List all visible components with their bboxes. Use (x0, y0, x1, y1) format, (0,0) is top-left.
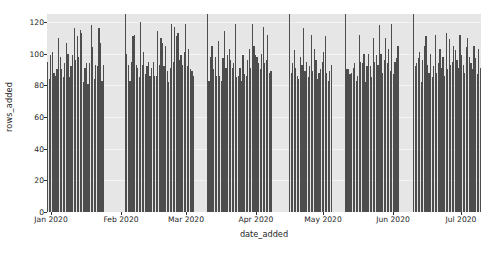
y-tick-label: 0 (2, 208, 44, 217)
x-tick-label: Jan 2020 (34, 215, 67, 224)
bar (331, 65, 332, 212)
x-tick-label: Apr 2020 (239, 215, 274, 224)
bar (397, 46, 398, 212)
bar (480, 68, 481, 212)
y-axis-label: rows_added (0, 0, 18, 213)
y-tick-label: 80 (2, 81, 44, 90)
bar (193, 76, 194, 212)
y-axis-ticks: 020406080100120 (0, 0, 44, 261)
x-tick-mark (121, 212, 122, 215)
x-tick-mark (393, 212, 394, 215)
y-tick-label: 40 (2, 144, 44, 153)
bar-series (47, 14, 481, 212)
y-tick-mark (44, 212, 47, 213)
x-tick-label: Feb 2020 (103, 215, 138, 224)
x-tick-label: May 2020 (304, 215, 341, 224)
x-tick-mark (323, 212, 324, 215)
y-tick-label: 100 (2, 49, 44, 58)
x-tick-mark (461, 212, 462, 215)
x-tick-mark (186, 212, 187, 215)
y-tick-label: 60 (2, 112, 44, 121)
bar (103, 65, 104, 212)
y-tick-label: 20 (2, 176, 44, 185)
bar (270, 71, 271, 212)
x-tick-mark (51, 212, 52, 215)
y-axis-label-text: rows_added (4, 82, 14, 132)
x-tick-mark (256, 212, 257, 215)
x-tick-label: Jul 2020 (446, 215, 477, 224)
chart-figure: rows_added 020406080100120 Jan 2020Feb 2… (0, 0, 492, 261)
x-tick-label: Mar 2020 (168, 215, 204, 224)
plot-area (47, 14, 481, 212)
y-tick-label: 120 (2, 17, 44, 26)
x-tick-label: Jun 2020 (376, 215, 410, 224)
x-axis-label: date_added (47, 229, 481, 239)
